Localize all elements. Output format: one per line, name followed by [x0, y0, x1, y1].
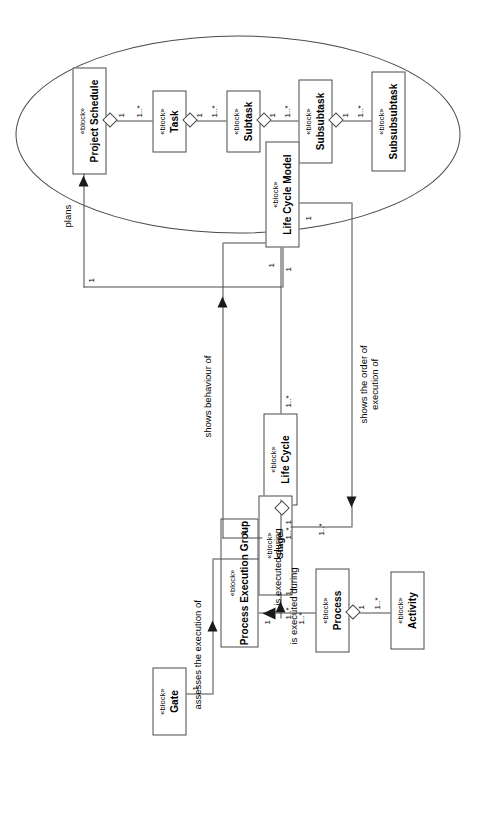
mult-lc-stage-from: 1: [283, 520, 292, 524]
block-stereotype: «block»: [321, 597, 330, 624]
block-stereotype: «block»: [377, 108, 386, 135]
block-stereotype: «block»: [269, 446, 278, 473]
shows-order-label-line1: shows the order of: [357, 345, 368, 423]
block-name: Life Cycle: [279, 435, 291, 483]
mult-lc-stage-to: 1..*: [283, 527, 292, 539]
block-project-schedule[interactable]: «block» Project Schedule: [72, 67, 106, 174]
block-name: Subtask: [242, 101, 254, 141]
block-process[interactable]: «block» Process: [315, 568, 349, 652]
diagram-canvas: «block» Project Schedule «block» Task «b…: [0, 0, 480, 827]
mult-subsubtask-subsubsubtask-to: 1..*: [355, 105, 364, 117]
block-stereotype: «block»: [232, 108, 241, 135]
plans-line-horizontal: [83, 173, 84, 287]
plans-line-vertical: [83, 286, 282, 287]
block-name: Project Schedule: [88, 79, 100, 162]
mult-shows-order-to: 1..*: [316, 523, 325, 535]
mult-shows-behaviour-from: 1..*: [238, 523, 247, 535]
block-name: Life Cycle Model: [281, 154, 293, 235]
mult-peg-stage-to: 1: [283, 591, 292, 595]
block-name: Process Execution Group: [238, 520, 250, 645]
is-executed-during-1-label: is executed during: [288, 567, 299, 644]
assesses-drop: [212, 558, 258, 559]
mult-lcm-lc-to: 1: [283, 267, 292, 271]
block-name: Subsubtask: [314, 92, 326, 150]
block-task[interactable]: «block» Task: [152, 90, 186, 152]
block-stereotype: «block»: [228, 569, 237, 596]
plans-arrowhead: [78, 175, 88, 186]
mult-task-subtask-to: 1..*: [209, 105, 218, 117]
shows-order-arrowhead: [346, 496, 356, 507]
diagram-page: «block» Project Schedule «block» Task «b…: [0, 0, 480, 827]
mult-ps-task-from: 1: [116, 113, 125, 117]
shows-behaviour-arrowhead: [217, 296, 227, 307]
mult-gate-assesses-from: 1: [190, 686, 199, 690]
is-executed-during-2-arrowhead: [262, 607, 275, 619]
shows-behaviour-drop: [222, 242, 265, 243]
mult-ps-task-to: 1..*: [134, 105, 143, 117]
mult-process-activity-to: 1..*: [372, 597, 381, 609]
shows-order-drop: [299, 202, 351, 203]
block-name: Process: [331, 590, 343, 630]
shows-order-label: shows the order of execution of: [358, 345, 380, 423]
block-life-cycle-model[interactable]: «block» Life Cycle Model: [265, 141, 299, 247]
mult-plans-target: 1: [266, 263, 275, 267]
assesses-label: assesses the execution of: [192, 600, 203, 709]
assoc-line-lcm-lc: [280, 247, 281, 413]
block-stereotype: «block»: [304, 108, 313, 135]
block-subsubsubtask[interactable]: «block» Subsubsubtask: [371, 71, 405, 171]
block-stereotype: «block»: [158, 108, 167, 135]
shows-behaviour-line: [222, 243, 223, 538]
mult-shows-order-from: 1: [303, 216, 312, 220]
mult-process-peg-from: 1..*: [296, 612, 305, 624]
block-gate[interactable]: «block» Gate: [152, 667, 186, 735]
shows-order-line: [351, 202, 352, 527]
shows-behaviour-label: shows behaviour of: [202, 355, 213, 437]
plans-label: plans: [62, 204, 73, 227]
block-stereotype: «block»: [396, 597, 405, 624]
mult-process-peg-to: 1: [262, 620, 271, 624]
block-name: Gate: [168, 690, 180, 713]
is-executed-during-2-label: is executed during: [272, 528, 283, 605]
mult-subtask-subsubtask-to: 1..*: [282, 105, 291, 117]
block-subsubtask[interactable]: «block» Subsubtask: [298, 79, 332, 163]
mult-process-activity-from: 1: [356, 605, 365, 609]
block-name: Subsubsubtask: [387, 83, 399, 159]
block-name: Task: [168, 110, 180, 132]
block-name: Activity: [406, 592, 418, 629]
block-stereotype: «block»: [271, 181, 280, 208]
mult-subsubtask-subsubsubtask-from: 1: [340, 113, 349, 117]
shows-order-label-line2: execution of: [368, 358, 379, 409]
block-stereotype: «block»: [78, 107, 87, 134]
mult-task-subtask-from: 1: [194, 113, 203, 117]
block-life-cycle[interactable]: «block» Life Cycle: [263, 413, 297, 505]
block-subtask[interactable]: «block» Subtask: [226, 90, 260, 152]
shows-behaviour-riser: [222, 537, 262, 538]
mult-plans-source: 1: [86, 278, 95, 282]
block-stereotype: «block»: [158, 688, 167, 715]
mult-subtask-subsubtask-from: 1: [267, 113, 276, 117]
mult-lcm-lc-from: 1..*: [283, 395, 292, 407]
block-activity[interactable]: «block» Activity: [390, 571, 424, 649]
assesses-arrowhead: [207, 620, 217, 631]
